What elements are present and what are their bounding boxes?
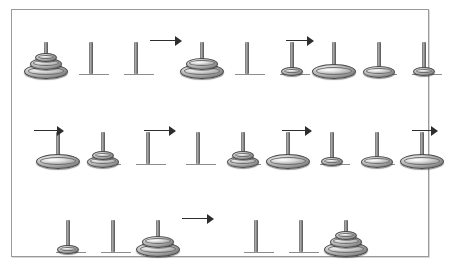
arrow-shaft — [144, 130, 170, 131]
disk-medium[interactable] — [142, 236, 174, 248]
peg-3[interactable] — [142, 200, 187, 266]
peg-rod — [89, 42, 93, 74]
peg-1[interactable] — [318, 22, 363, 88]
hanoi-state — [316, 112, 451, 182]
disk-large[interactable] — [400, 154, 444, 169]
peg-base-line — [79, 74, 109, 75]
disk-large[interactable] — [266, 154, 310, 169]
arrow-head — [57, 126, 64, 136]
arrow-shaft — [182, 218, 208, 219]
peg-base-line — [136, 164, 166, 165]
transition-arrow-icon — [144, 126, 176, 136]
peg-2[interactable] — [97, 200, 142, 266]
disk-medium[interactable] — [363, 66, 395, 78]
disk-small[interactable] — [321, 157, 343, 166]
peg-rod — [254, 220, 258, 252]
peg-base-line — [186, 164, 216, 165]
disk-medium[interactable] — [186, 58, 218, 70]
arrow-head — [431, 126, 438, 136]
peg-2[interactable] — [285, 200, 330, 266]
disk-small[interactable] — [281, 67, 303, 76]
state-row — [0, 22, 452, 110]
disk-rim — [235, 153, 252, 157]
peg-base-line — [289, 252, 319, 253]
arrow-shaft — [34, 130, 58, 131]
peg-rod — [134, 42, 138, 74]
peg-3[interactable] — [408, 22, 452, 88]
disk-rim — [95, 153, 112, 157]
hanoi-state — [30, 22, 165, 92]
disk-rim — [416, 69, 433, 73]
hanoi-state — [318, 22, 452, 92]
peg-rod — [196, 132, 200, 164]
hanoi-state — [186, 22, 321, 92]
transition-arrow-icon — [34, 126, 64, 136]
disk-small[interactable] — [232, 151, 254, 160]
arrow-shaft — [150, 40, 176, 41]
peg-rod — [146, 132, 150, 164]
disk-large[interactable] — [36, 154, 80, 169]
disk-rim — [284, 69, 301, 73]
disk-rim — [145, 238, 170, 244]
peg-2[interactable] — [231, 22, 276, 88]
disk-rim — [324, 159, 341, 163]
peg-1[interactable] — [182, 112, 227, 178]
peg-2[interactable] — [87, 112, 132, 178]
peg-1[interactable] — [316, 112, 361, 178]
disk-rim — [40, 157, 75, 165]
disk-rim — [189, 60, 214, 66]
disk-rim — [316, 67, 351, 75]
disk-small[interactable] — [35, 53, 57, 62]
disk-rim — [404, 157, 439, 165]
arrow-head — [207, 214, 214, 224]
peg-base-line — [235, 74, 265, 75]
peg-2[interactable] — [361, 112, 406, 178]
peg-3[interactable] — [120, 22, 165, 88]
peg-3[interactable] — [330, 200, 375, 266]
arrow-shaft — [286, 40, 308, 41]
peg-3[interactable] — [276, 22, 321, 88]
transition-arrow-icon — [282, 126, 312, 136]
hanoi-state — [42, 112, 177, 182]
disk-small[interactable] — [92, 151, 114, 160]
arrow-head — [175, 36, 182, 46]
state-row — [0, 112, 452, 200]
peg-1[interactable] — [186, 22, 231, 88]
peg-rod — [299, 220, 303, 252]
disk-medium[interactable] — [361, 156, 393, 168]
peg-base-line — [101, 252, 131, 253]
arrow-shaft — [412, 130, 432, 131]
peg-1[interactable] — [52, 200, 97, 266]
disk-rim — [60, 247, 77, 251]
hanoi-state — [52, 200, 187, 270]
peg-base-line — [124, 74, 154, 75]
peg-rod — [111, 220, 115, 252]
arrow-head — [305, 126, 312, 136]
hanoi-state — [240, 200, 375, 270]
peg-3[interactable] — [406, 112, 451, 178]
peg-1[interactable] — [42, 112, 87, 178]
disk-rim — [364, 158, 389, 164]
transition-arrow-icon — [412, 126, 438, 136]
peg-3[interactable] — [132, 112, 177, 178]
peg-1[interactable] — [30, 22, 75, 88]
transition-arrow-icon — [182, 214, 214, 224]
state-rows-container — [0, 0, 452, 272]
peg-2[interactable] — [227, 112, 272, 178]
peg-3[interactable] — [272, 112, 317, 178]
hanoi-state — [182, 112, 317, 182]
disk-rim — [270, 157, 305, 165]
disk-rim — [38, 55, 55, 59]
hanoi-figure — [0, 0, 452, 272]
disk-large[interactable] — [312, 64, 356, 79]
peg-1[interactable] — [240, 200, 285, 266]
transition-arrow-icon — [150, 36, 182, 46]
peg-2[interactable] — [363, 22, 408, 88]
disk-small[interactable] — [413, 67, 435, 76]
transition-arrow-icon — [286, 36, 314, 46]
disk-small[interactable] — [335, 231, 357, 240]
arrow-head — [307, 36, 314, 46]
arrow-shaft — [282, 130, 306, 131]
disk-small[interactable] — [57, 245, 79, 254]
peg-2[interactable] — [75, 22, 120, 88]
